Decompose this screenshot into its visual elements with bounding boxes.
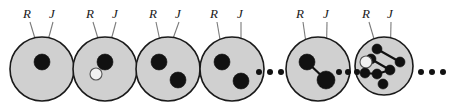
particle-filled-6-1 <box>372 44 382 54</box>
label-J-2: J <box>112 6 119 21</box>
cell-group-5: RJ <box>286 6 350 101</box>
label-J-1: J <box>49 6 56 21</box>
cell-group-4: RJ <box>200 6 264 101</box>
cell-group-3: RJ <box>136 6 200 101</box>
cell-circle-5 <box>286 37 350 101</box>
label-J-4: J <box>237 6 244 21</box>
cell-circle-4 <box>200 37 264 101</box>
particle-filled-6-5 <box>385 65 395 75</box>
ellipsis-right <box>418 69 446 75</box>
cell-group-2: RJ <box>73 6 137 101</box>
particle-hollow-6-3 <box>360 56 372 68</box>
cell-sequence-figure: RJRJRJRJRJRJ <box>0 0 453 110</box>
particle-filled-6-4 <box>395 57 405 67</box>
particle-filled-5-2 <box>317 71 335 89</box>
label-R-3: R <box>148 6 157 21</box>
particle-filled-3-1 <box>151 54 167 70</box>
ellipsis-left-dot-3 <box>278 69 284 75</box>
label-R-6: R <box>361 6 370 21</box>
particle-filled-6-7 <box>372 69 382 79</box>
label-R-2: R <box>85 6 94 21</box>
ellipsis-left-dot-1 <box>256 69 262 75</box>
ellipsis-right-dot-3 <box>440 69 446 75</box>
particle-filled-6-6 <box>360 68 370 78</box>
ellipsis-right-dot-2 <box>429 69 435 75</box>
ellipsis-middle-dot-3 <box>354 69 360 75</box>
particle-filled-3-2 <box>170 72 186 88</box>
label-R-1: R <box>22 6 31 21</box>
ellipsis-right-dot-1 <box>418 69 424 75</box>
particle-filled-6-8 <box>378 79 388 89</box>
cell-group-1: RJ <box>10 6 74 101</box>
particle-filled-4-1 <box>214 54 230 70</box>
ellipsis-left-dot-2 <box>267 69 273 75</box>
ellipsis-middle <box>336 69 360 75</box>
label-R-5: R <box>295 6 304 21</box>
label-J-5: J <box>323 6 330 21</box>
label-J-3: J <box>175 6 182 21</box>
particle-hollow-2-2 <box>90 68 102 80</box>
ellipsis-middle-dot-1 <box>336 69 342 75</box>
particle-filled-5-1 <box>299 54 315 70</box>
label-R-4: R <box>209 6 218 21</box>
ellipsis-left <box>256 69 284 75</box>
particle-filled-4-2 <box>233 73 249 89</box>
cell-circle-3 <box>136 37 200 101</box>
label-J-6: J <box>387 6 394 21</box>
ellipsis-middle-dot-2 <box>345 69 351 75</box>
particle-filled-1-1 <box>34 54 50 70</box>
particle-filled-2-1 <box>97 54 113 70</box>
cell-group-6: RJ <box>355 6 413 95</box>
figure-canvas: RJRJRJRJRJRJ <box>0 0 453 110</box>
